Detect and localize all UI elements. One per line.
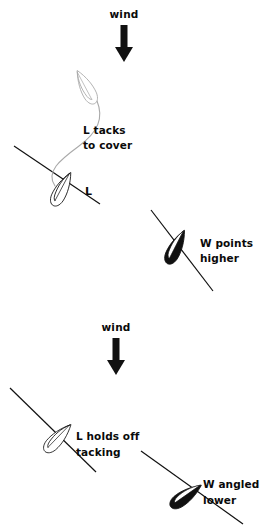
annotation-w-angled-line2: lower <box>203 494 237 506</box>
wind-label-upper: wind <box>109 8 138 20</box>
lower-panel: wind L holds off tacking W angled lower <box>10 321 259 524</box>
course-line-w-upper <box>151 210 213 291</box>
annotation-w-angled-line1: W angled <box>203 478 259 490</box>
diagram-canvas: wind L tacks to cov <box>0 0 261 526</box>
annotation-w-points-line2: higher <box>200 252 240 264</box>
annotation-l-holds-off-line2: tacking <box>76 446 121 458</box>
annotation-l-holds-off-line1: L holds off <box>76 430 140 442</box>
wind-arrow-icon-upper <box>115 25 133 62</box>
upper-panel: wind L tacks to cov <box>14 8 253 291</box>
annotation-l-tacks-line2: to cover <box>83 139 133 151</box>
annotation-l-tacks-line1: L tacks <box>83 124 126 136</box>
boat-w-lower <box>167 480 205 512</box>
boat-w-upper <box>162 227 191 266</box>
wind-label-lower: wind <box>101 321 130 333</box>
boat-l-lower <box>40 420 76 456</box>
boat-l-ghost <box>71 67 100 106</box>
annotation-w-points-line1: W points <box>200 237 253 249</box>
sailing-tactics-diagram: wind L tacks to cov <box>0 0 261 526</box>
wind-arrow-icon-lower <box>107 338 125 375</box>
boat-label-l-upper: L <box>85 185 92 198</box>
